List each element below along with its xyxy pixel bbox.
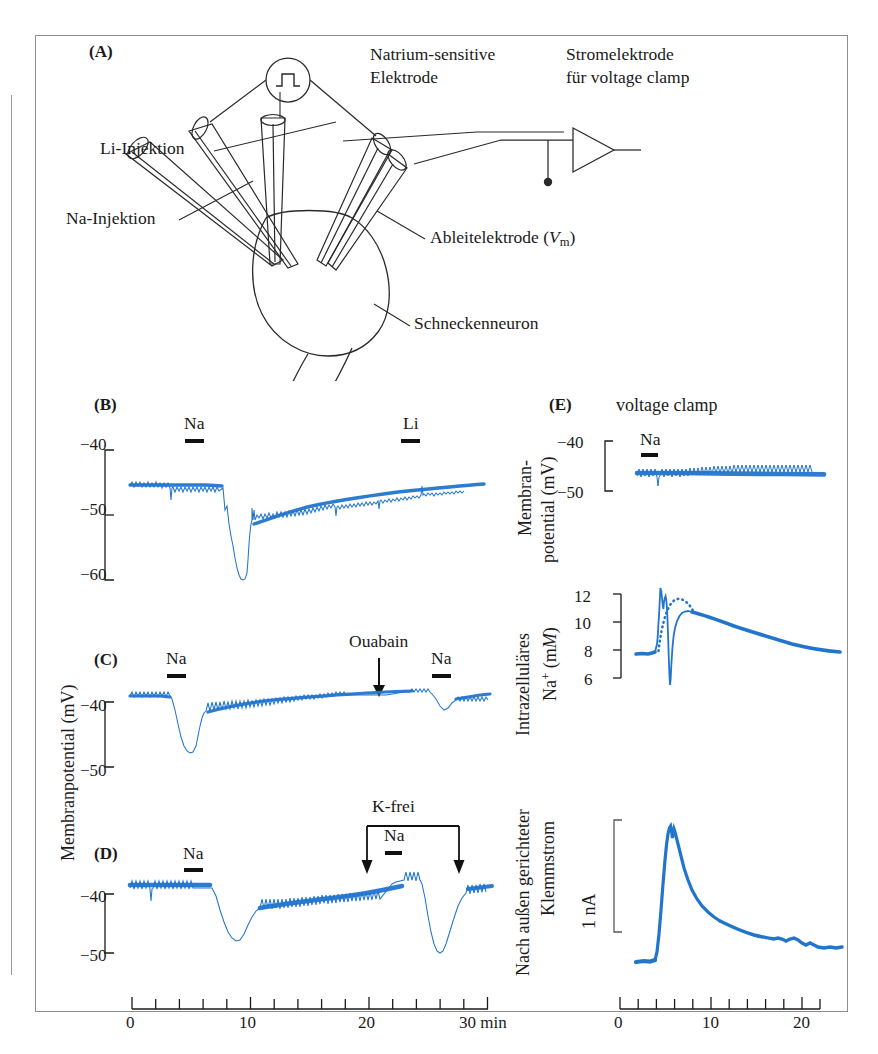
panel-a-label-na-injektion: Na-Injektion bbox=[66, 209, 155, 229]
ableitelektrode-text: Ableitelektrode ( bbox=[430, 227, 549, 247]
amplifier-icon bbox=[414, 128, 641, 186]
panel-e2-y-label-line2: Na+ (mM) bbox=[538, 627, 561, 701]
panel-e2-m-ital: M bbox=[540, 633, 560, 648]
left-x-tick-30: 30 min bbox=[459, 1013, 507, 1032]
panel-d-annotation-na-2-bar bbox=[385, 851, 402, 855]
panel-e2-na: Na bbox=[540, 680, 560, 701]
panel-e2-rest: (m bbox=[540, 648, 560, 673]
panel-a-label-strom-line2: für voltage clamp bbox=[566, 68, 689, 88]
panel-e3-scale-bar bbox=[614, 820, 622, 932]
axon-right bbox=[316, 348, 352, 381]
right-x-tick-0: 0 bbox=[614, 1013, 623, 1032]
panel-d-annotation-na-2: Na bbox=[384, 826, 404, 846]
panel-e2-y-label-line1: Intrazelluläres bbox=[513, 633, 534, 736]
axon-left bbox=[282, 354, 308, 381]
panel-e1-plot bbox=[592, 432, 842, 542]
ableitelektrode-v: V bbox=[549, 227, 560, 247]
left-x-tick-20: 20 bbox=[358, 1013, 375, 1032]
page-side-rule bbox=[11, 95, 12, 975]
panel-e3-plot bbox=[592, 802, 862, 1002]
pipette-stromelektrode bbox=[317, 130, 394, 266]
panel-e1-y-bracket bbox=[605, 441, 613, 491]
panel-e3-y-label-line1: Nach außen gerichteter bbox=[513, 809, 534, 976]
panel-b-trace bbox=[130, 482, 484, 580]
panel-e1-ytick--50: −50 bbox=[557, 483, 584, 502]
panel-c-plot bbox=[76, 666, 496, 826]
panel-b-tag: (B) bbox=[94, 395, 117, 414]
pulse-generator-icon bbox=[210, 58, 376, 136]
panel-e1-y-label-line2: potential (mV) bbox=[538, 457, 559, 563]
panel-d-annotation-kfrei: K-frei bbox=[372, 797, 415, 817]
left-x-tick-0: 0 bbox=[126, 1013, 135, 1032]
panel-e2-plot bbox=[592, 582, 852, 712]
panel-e3-y-label-line2: Klemmstrom bbox=[538, 821, 559, 916]
left-column-x-axis bbox=[124, 991, 504, 1015]
right-column-x-axis bbox=[612, 991, 837, 1015]
figure-frame: (A) bbox=[35, 35, 848, 1012]
leader-lines bbox=[179, 92, 564, 326]
panel-e2-close: ) bbox=[540, 627, 560, 633]
leader-li bbox=[214, 122, 336, 151]
panel-e2-ytick-10: 10 bbox=[574, 614, 591, 633]
leader-schnecke bbox=[374, 304, 410, 326]
ground-dot bbox=[544, 178, 552, 186]
panel-d-trace bbox=[130, 872, 492, 953]
panel-a-label-ableitelektrode: Ableitelektrode (Vm) bbox=[430, 228, 575, 249]
soma-outline bbox=[253, 211, 390, 357]
left-x-tick-10: 10 bbox=[239, 1013, 256, 1032]
panel-e-tag: (E) bbox=[549, 395, 572, 414]
ableitelektrode-m: m bbox=[560, 235, 570, 249]
panel-a-label-li-injektion: Li-Injektion bbox=[100, 139, 185, 159]
panel-e3-trace bbox=[636, 826, 842, 962]
wire-gen-left bbox=[210, 80, 266, 122]
panel-a-label-strom-line1: Stromelektrode bbox=[566, 45, 674, 65]
panel-e2-ytick-12: 12 bbox=[574, 587, 591, 606]
panel-b-annotation-li: Li bbox=[403, 414, 419, 434]
panel-e2-trace bbox=[636, 588, 840, 685]
panel-e1-trace bbox=[637, 465, 824, 486]
right-x-tick-20: 20 bbox=[793, 1013, 810, 1032]
panel-a-label-schneckenneuron: Schneckenneuron bbox=[414, 314, 538, 334]
panel-b-plot bbox=[76, 440, 496, 630]
panel-e2-plus: + bbox=[538, 673, 553, 680]
panel-a-label-natrium-line1: Natrium-sensitive bbox=[370, 45, 495, 65]
panel-c-annotation-ouabain: Ouabain bbox=[349, 632, 408, 652]
panel-c-y-bracket bbox=[105, 702, 114, 767]
panel-e1-y-label-line1: Membran- bbox=[515, 460, 536, 536]
panel-e-header: voltage clamp bbox=[616, 395, 717, 415]
ableitelektrode-close: ) bbox=[570, 227, 576, 247]
panel-e1-ytick--40: −40 bbox=[557, 433, 584, 452]
panel-d-plot bbox=[76, 858, 496, 1008]
panel-b-annotation-na: Na bbox=[184, 414, 204, 434]
leader-na bbox=[179, 181, 253, 220]
wire-gen-right bbox=[310, 80, 376, 136]
figure-root: (A) bbox=[0, 0, 878, 1054]
panel-d-y-bracket bbox=[105, 894, 114, 953]
panel-a-label-natrium-line2: Elektrode bbox=[370, 68, 438, 88]
panel-e2-y-axis bbox=[613, 594, 621, 678]
leader-ableit bbox=[377, 211, 425, 239]
panel-b-y-bracket bbox=[105, 450, 114, 580]
wire-amp-in bbox=[414, 140, 573, 164]
panel-c-trace bbox=[130, 689, 490, 753]
right-x-tick-10: 10 bbox=[702, 1013, 719, 1032]
